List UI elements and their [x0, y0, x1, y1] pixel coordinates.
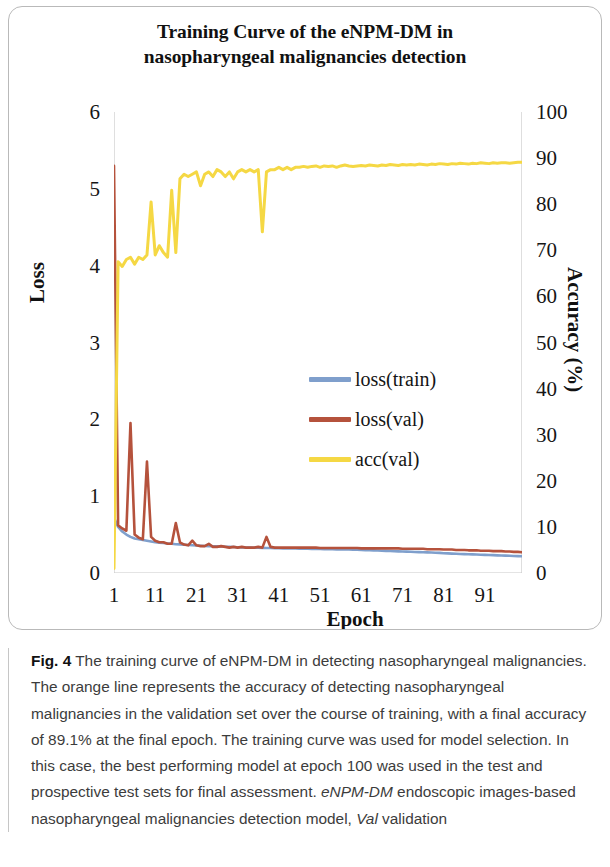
- legend-item-accval: acc(val): [309, 439, 436, 479]
- axes-group: [114, 112, 522, 573]
- chart-title: Training Curve of the eNPM-DM in nasopha…: [9, 19, 601, 69]
- training-curve-chart: [114, 112, 522, 573]
- y-axis-left-tick-label: 5: [52, 179, 100, 200]
- legend-swatch-icon: [309, 417, 351, 422]
- y-axis-right-tick-label: 30: [536, 425, 584, 446]
- legend-item-losstrain: loss(train): [309, 359, 436, 399]
- legend-label: acc(val): [355, 448, 419, 471]
- y-axis-right-tick-label: 20: [536, 471, 584, 492]
- y-axis-right-tick-label: 10: [536, 517, 584, 538]
- chart-legend: loss(train)loss(val)acc(val): [309, 359, 436, 479]
- caption-text-part1: The training curve of eNPM-DM in detecti…: [31, 652, 587, 800]
- y-axis-left-title: Loss: [25, 262, 50, 303]
- legend-swatch-icon: [309, 457, 351, 462]
- y-axis-right-tick-label: 0: [536, 563, 584, 584]
- y-axis-right-tick-label: 100: [536, 102, 584, 123]
- caption-text-part3: validation: [378, 810, 447, 827]
- legend-swatch-icon: [309, 377, 351, 382]
- y-axis-left-tick-label: 3: [52, 333, 100, 354]
- y-axis-left-tick-label: 6: [52, 102, 100, 123]
- figure-caption: Fig. 4 The training curve of eNPM-DM in …: [8, 648, 588, 832]
- plot-area: [114, 112, 522, 573]
- y-axis-left-tick-label: 4: [52, 256, 100, 277]
- y-axis-right-title: Accuracy (%): [562, 267, 587, 392]
- x-axis-tick-label: 91: [460, 585, 510, 606]
- legend-item-lossval: loss(val): [309, 399, 436, 439]
- x-axis-title: Epoch: [9, 607, 601, 630]
- y-axis-left-tick-label: 1: [52, 486, 100, 507]
- caption-italic-enpmdm: eNPM-DM: [321, 783, 393, 800]
- y-axis-left-tick-label: 2: [52, 409, 100, 430]
- caption-figure-number: Fig. 4: [31, 652, 71, 669]
- legend-label: loss(val): [355, 408, 424, 431]
- y-axis-right-tick-label: 70: [536, 240, 584, 261]
- y-axis-left-tick-label: 0: [52, 563, 100, 584]
- y-axis-right-tick-label: 80: [536, 194, 584, 215]
- figure-panel: Training Curve of the eNPM-DM in nasopha…: [8, 6, 602, 630]
- y-axis-right-tick-label: 90: [536, 148, 584, 169]
- caption-italic-val: Val: [356, 810, 378, 827]
- legend-label: loss(train): [355, 368, 436, 391]
